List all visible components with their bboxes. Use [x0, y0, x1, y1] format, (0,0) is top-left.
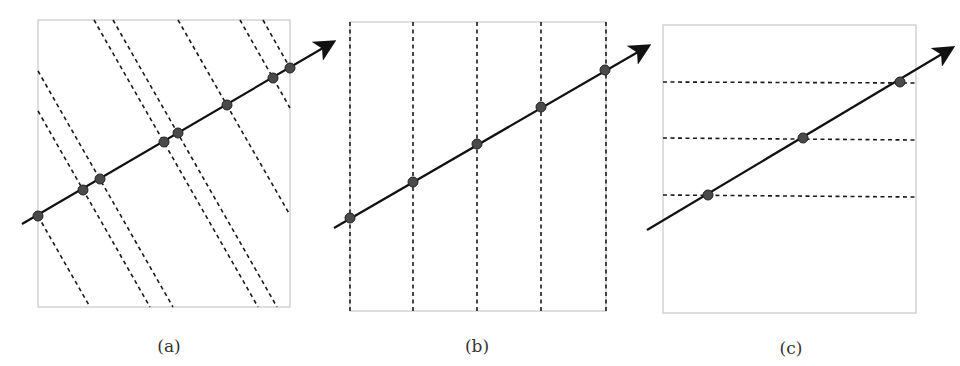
panel-a	[22, 20, 323, 307]
projected-point	[78, 185, 88, 195]
projected-point	[285, 63, 295, 73]
projection-line	[263, 20, 290, 68]
projection-line	[38, 111, 150, 307]
projection-line	[178, 20, 290, 215]
projection-line	[38, 216, 90, 307]
projected-point	[173, 128, 183, 138]
panel-label-a: (a)	[139, 336, 199, 356]
panel-label-b: (b)	[447, 336, 507, 356]
projected-point	[600, 65, 610, 75]
projection-line	[240, 20, 290, 108]
direction-arrow	[22, 48, 323, 224]
projected-point	[268, 73, 278, 83]
projected-point	[536, 102, 546, 112]
panel-label-c: (c)	[761, 338, 821, 358]
projected-point	[408, 177, 418, 187]
direction-arrow	[334, 52, 638, 228]
projection-line	[113, 20, 277, 307]
frame-box	[350, 22, 606, 311]
frame-box	[663, 25, 916, 313]
projection-line	[663, 138, 916, 140]
projection-diagram	[0, 0, 960, 366]
projection-line	[38, 71, 173, 307]
projection-line	[94, 20, 258, 307]
panel-b	[334, 22, 638, 311]
projected-point	[33, 211, 43, 221]
projected-point	[703, 190, 713, 200]
projected-point	[159, 137, 169, 147]
projected-point	[222, 100, 232, 110]
projection-line	[663, 82, 916, 83]
projected-point	[472, 139, 482, 149]
projected-point	[798, 133, 808, 143]
projected-point	[95, 174, 105, 184]
projected-point	[345, 213, 355, 223]
panel-c	[647, 25, 942, 313]
projected-point	[895, 77, 905, 87]
